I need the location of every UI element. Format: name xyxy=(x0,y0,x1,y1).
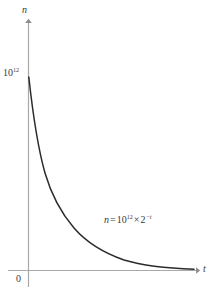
curve-equation-label: n=1012×2−t xyxy=(104,215,151,225)
decay-curve xyxy=(29,77,194,269)
y-tick-label: 1012 xyxy=(3,68,19,78)
origin-label: 0 xyxy=(16,274,21,284)
plot-area xyxy=(0,0,214,304)
y-axis-label: n xyxy=(22,5,27,15)
equation-base-mantissa: 10 xyxy=(117,214,127,225)
exponential-decay-figure: n t 0 1012 n=1012×2−t xyxy=(0,0,214,304)
y-tick-mantissa: 10 xyxy=(3,67,13,78)
equation-factor-exponent: −t xyxy=(145,213,151,220)
y-tick-exponent: 12 xyxy=(13,66,19,73)
x-axis-label: t xyxy=(203,264,206,274)
equation-equals: = xyxy=(109,214,117,225)
equation-base-exponent: 12 xyxy=(127,213,133,220)
